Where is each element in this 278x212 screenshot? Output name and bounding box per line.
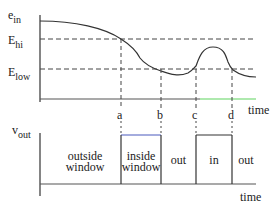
region-outside-line2: window	[55, 162, 115, 173]
window-comparator-diagram	[0, 0, 278, 212]
region-out-2: out	[232, 154, 260, 166]
marker-d-label: d	[228, 109, 234, 121]
region-in: in	[196, 154, 232, 166]
e-low-label-sub: low	[15, 71, 30, 82]
top-time-label: time	[248, 104, 269, 116]
region-inside-window: inside window	[120, 151, 162, 173]
marker-a-label: a	[117, 109, 122, 121]
ein-label: ein	[8, 9, 21, 22]
marker-b-label: b	[157, 109, 163, 121]
e-hi-label-sub: hi	[15, 39, 23, 50]
vout-label: vout	[12, 124, 31, 137]
region-out-1: out	[161, 154, 196, 166]
region-inside-line2: window	[120, 162, 162, 173]
marker-c-label: c	[192, 109, 197, 121]
e-hi-label: Ehi	[8, 34, 23, 47]
vout-label-sub: out	[18, 129, 31, 140]
bottom-time-label: time	[240, 191, 261, 203]
region-outside-window: outside window	[55, 151, 115, 173]
ein-label-sub: in	[13, 14, 21, 25]
e-low-label: Elow	[8, 66, 30, 79]
